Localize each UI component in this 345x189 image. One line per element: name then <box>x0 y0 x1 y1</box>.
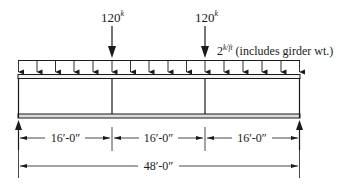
distributed-load-label: 2k/ft(includes girder wt.) <box>217 43 333 58</box>
segment-dimension-3: 16′-0″ <box>207 131 298 145</box>
total-dimension-label: 48′-0″ <box>144 159 174 173</box>
beam-diagram: 120k 120k 2k/ft(includes girder wt.) <box>0 0 345 189</box>
point-load-2: 120k <box>195 9 219 58</box>
distributed-load-arrows <box>19 60 300 72</box>
dimension-arrow-icon <box>114 136 121 140</box>
dimension-arrow-icon <box>196 136 203 140</box>
point-load-2-label: 120k <box>195 9 219 25</box>
point-load-1-label: 120k <box>101 9 125 25</box>
dimension-arrow-icon <box>207 136 214 140</box>
total-dimension: 48′-0″ <box>20 159 298 173</box>
segment-dimension-1-label: 16′-0″ <box>51 131 81 145</box>
dimension-arrow-icon <box>103 136 110 140</box>
left-reaction <box>15 120 22 150</box>
top-flange <box>18 75 300 79</box>
segment-dimension-1: 16′-0″ <box>20 131 110 145</box>
segment-dimension-2: 16′-0″ <box>114 131 203 145</box>
bottom-flange <box>18 114 300 118</box>
point-load-1-arrow-icon <box>108 46 116 58</box>
dimension-arrow-icon <box>291 136 298 140</box>
right-reaction-arrow-icon <box>296 120 303 130</box>
point-load-1: 120k <box>101 9 125 58</box>
segment-dimension-2-label: 16′-0″ <box>144 131 174 145</box>
left-reaction-arrow-icon <box>15 120 22 130</box>
dimension-arrow-icon <box>20 164 27 168</box>
dimension-arrow-icon <box>291 164 298 168</box>
segment-dimension-3-label: 16′-0″ <box>237 131 267 145</box>
point-load-2-arrow-icon <box>201 46 209 58</box>
dimension-arrow-icon <box>20 136 27 140</box>
right-reaction <box>296 120 303 150</box>
girder <box>18 75 300 119</box>
